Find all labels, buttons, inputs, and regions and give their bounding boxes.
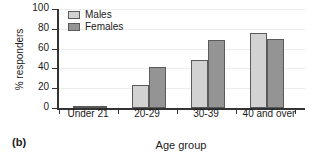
- legend: Males Females: [68, 9, 123, 33]
- bar-males-40-and-over: [250, 33, 267, 108]
- y-tick-label-0: 0: [43, 101, 49, 112]
- y-tick-label-80: 80: [38, 22, 49, 33]
- bar-males-30-39: [191, 60, 208, 108]
- y-tick-20: [52, 88, 57, 89]
- legend-swatch-males-icon: [68, 11, 80, 19]
- x-axis-title: Age group: [57, 139, 305, 151]
- y-tick-100: [52, 9, 57, 10]
- x-tick-label-30-39: 30-39: [176, 108, 236, 119]
- y-tick-label-20: 20: [38, 81, 49, 92]
- bar-group-20-29: [132, 9, 166, 108]
- bar-females-30-39: [208, 40, 225, 108]
- x-tick-label-40-and-over: 40 and over: [232, 108, 306, 119]
- legend-swatch-females-icon: [68, 23, 80, 31]
- y-tick-label-100: 100: [32, 2, 49, 13]
- legend-item-males: Males: [68, 9, 123, 20]
- bar-females-20-29: [149, 67, 166, 108]
- y-tick-60: [52, 49, 57, 50]
- y-axis-title: % responders: [14, 0, 25, 120]
- y-tick-40: [52, 68, 57, 69]
- legend-item-females: Females: [68, 21, 123, 32]
- panel-label: (b): [12, 136, 26, 148]
- bar-males-20-29: [132, 85, 149, 108]
- y-tick-label-60: 60: [38, 42, 49, 53]
- bar-group-40-and-over: [250, 9, 284, 108]
- legend-label-females: Females: [85, 21, 123, 32]
- x-tick-label-under-21: Under 21: [58, 108, 118, 119]
- y-tick-80: [52, 29, 57, 30]
- y-tick-label-40: 40: [38, 61, 49, 72]
- y-tick-0: [52, 108, 57, 109]
- bar-females-40-and-over: [267, 39, 284, 108]
- legend-label-males: Males: [85, 9, 112, 20]
- x-tick-label-20-29: 20-29: [117, 108, 177, 119]
- figure-panel-b: % responders 100 80 60 40 20 0: [0, 0, 313, 164]
- bar-group-30-39: [191, 9, 225, 108]
